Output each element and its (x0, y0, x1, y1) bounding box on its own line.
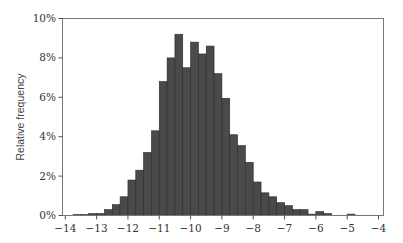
histogram-bar (191, 42, 199, 215)
histogram-bar (198, 54, 206, 216)
histogram-bar (222, 98, 230, 215)
x-tick-label: −4 (371, 222, 387, 234)
histogram-bar (277, 203, 285, 216)
x-tick-label: −13 (86, 222, 108, 234)
x-axis: −14−13−12−11−10−9−8−7−6−5−4 (54, 216, 386, 235)
y-axis-label: Relative frequency (14, 73, 26, 161)
x-tick-label: −10 (179, 222, 201, 234)
histogram-bar (238, 146, 246, 216)
histogram-bar (151, 131, 159, 216)
histogram-bar (104, 210, 112, 216)
y-tick-label: 2% (39, 170, 56, 182)
y-tick-label: 6% (39, 91, 56, 103)
histogram-bar (206, 46, 214, 215)
x-tick-label: −8 (245, 222, 260, 234)
histogram-bar (120, 197, 128, 216)
y-tick-label: 4% (39, 130, 56, 142)
y-tick-label: 8% (39, 51, 56, 63)
histogram-bar (285, 206, 293, 216)
histogram-bar (253, 182, 261, 215)
histogram-bars (73, 34, 355, 215)
y-tick-label: 0% (39, 209, 56, 221)
histogram-chart: −14−13−12−11−10−9−8−7−6−5−4 0%2%4%6%8%10… (0, 0, 403, 243)
x-tick-label: −12 (117, 222, 139, 234)
x-tick-label: −14 (54, 222, 76, 234)
histogram-bar (183, 68, 191, 216)
histogram-bar (136, 170, 144, 215)
x-tick-label: −7 (277, 222, 292, 234)
histogram-bar (214, 74, 222, 216)
y-tick-label: 10% (33, 12, 56, 24)
x-tick-label: −5 (339, 222, 354, 234)
histogram-bar (167, 58, 175, 216)
histogram-bar (292, 210, 300, 216)
histogram-bar (300, 210, 308, 216)
histogram-bar (128, 180, 136, 215)
histogram-bar (269, 197, 277, 216)
histogram-bar (175, 34, 183, 215)
y-axis: 0%2%4%6%8%10% (33, 12, 63, 221)
histogram-bar (230, 135, 238, 216)
x-tick-label: −11 (148, 222, 170, 234)
histogram-bar (112, 205, 120, 216)
x-tick-label: −6 (308, 222, 324, 234)
histogram-bar (144, 152, 152, 215)
histogram-bar (159, 82, 167, 216)
histogram-bar (261, 193, 269, 216)
x-tick-label: −9 (214, 222, 229, 234)
histogram-bar (245, 162, 253, 215)
histogram-bar (316, 212, 324, 216)
